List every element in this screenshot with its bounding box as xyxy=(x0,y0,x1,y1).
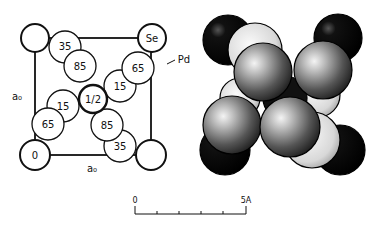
pd-sphere-dark xyxy=(260,97,320,157)
circle-label: 85 xyxy=(101,120,114,131)
unit-cell-diagram: 35 85 65 15 15 65 85 35 1/2 Se 0 Pd a₀ a… xyxy=(12,24,190,174)
pd-sphere-dark xyxy=(234,43,292,101)
circle-label: 35 xyxy=(59,41,72,52)
circle-label: 35 xyxy=(114,141,127,152)
origin-label: 0 xyxy=(32,150,38,161)
scale-start-label: 0 xyxy=(132,196,137,205)
se-atom-corner xyxy=(136,140,166,170)
figure: 35 85 65 15 15 65 85 35 1/2 Se 0 Pd a₀ a… xyxy=(0,0,371,229)
pd-sphere-dark xyxy=(294,41,352,99)
circle-label: 85 xyxy=(74,61,87,72)
pd-sphere-dark xyxy=(203,96,261,154)
circle-label: 65 xyxy=(132,63,145,74)
se-atom-corner xyxy=(21,24,49,52)
scale-bar xyxy=(135,206,246,214)
circle-label: 15 xyxy=(57,101,70,112)
pd-label: Pd xyxy=(178,54,190,65)
scale-end-label: 5A xyxy=(241,196,252,205)
circle-label: 15 xyxy=(114,81,127,92)
space-filling-model xyxy=(200,14,365,175)
se-label: Se xyxy=(146,33,159,44)
pd-leader-line xyxy=(167,60,175,64)
center-label: 1/2 xyxy=(85,94,101,105)
axis-label-bottom: a₀ xyxy=(87,163,97,174)
circle-label: 65 xyxy=(42,119,55,130)
axis-label-left: a₀ xyxy=(12,91,22,102)
